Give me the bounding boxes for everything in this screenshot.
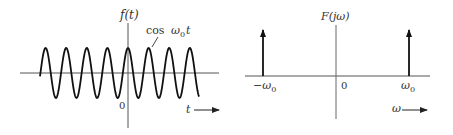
t-axis-label: t [186,103,191,116]
fourier-pair-figure: f(t) cos ω0t 0 t F(jω) [0,0,453,135]
time-domain-plot: f(t) cos ω0t 0 t [20,8,219,128]
curve-label-leader [152,37,158,47]
frequency-domain-plot: F(jω) −ω0 0 ω0 ω [245,10,430,119]
omega-origin-label: 0 [341,80,347,91]
F-axis-label: F(jω) [320,10,350,23]
curve-label: cos ω0t [146,24,191,39]
f-axis-label: f(t) [119,8,139,22]
pos-omega0-label: ω0 [401,79,415,94]
omega-axis-label: ω [392,102,401,115]
t-origin-label: 0 [119,100,125,111]
neg-omega0-label: −ω0 [253,79,276,94]
